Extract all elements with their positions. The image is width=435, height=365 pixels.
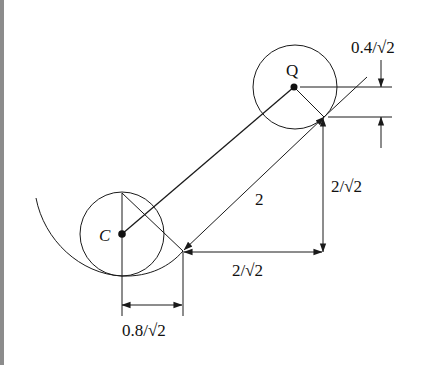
label-dim-bottom: 0.8/√2: [122, 321, 166, 340]
label-dim-vertical: 2/√2: [331, 177, 362, 196]
label-point-q: Q: [286, 61, 298, 80]
point-c-dot: [118, 230, 126, 238]
label-dim-diagonal: 2: [255, 190, 264, 209]
label-dim-top-right: 0.4/√2: [351, 38, 395, 57]
geometry-diagram: C Q 0.4/√2 2 2/√2 2/√2 0.8/√2: [0, 0, 435, 365]
tangent-line: [324, 77, 367, 117]
label-dim-horizontal: 2/√2: [232, 261, 263, 280]
radius-q: [294, 87, 324, 117]
dim-diagonal: [184, 117, 324, 250]
chord-c: [122, 193, 183, 251]
point-q-dot: [291, 84, 298, 91]
center-line-c-q: [122, 87, 294, 234]
label-point-c: C: [99, 226, 111, 245]
